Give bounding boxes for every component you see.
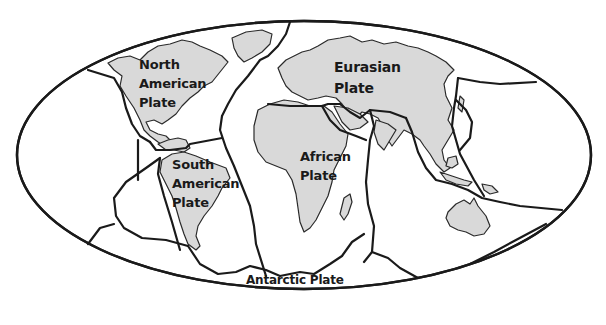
label-north-american-plate: North American Plate — [139, 55, 206, 112]
label-antarctic-plate: Antarctic Plate — [246, 271, 344, 290]
label-south-american-plate: South American Plate — [172, 155, 239, 212]
label-african-plate: African Plate — [300, 147, 351, 185]
label-eurasian-plate: Eurasian Plate — [334, 57, 401, 99]
